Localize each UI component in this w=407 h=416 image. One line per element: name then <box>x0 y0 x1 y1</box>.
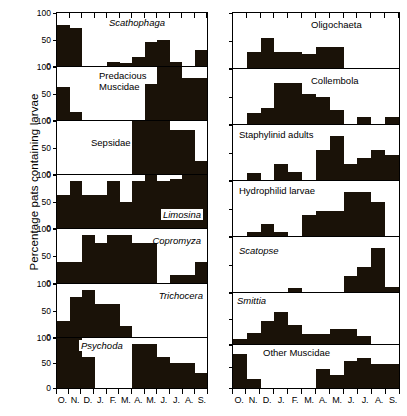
panel-caption: Limosina <box>161 209 203 220</box>
x-axis-tick <box>274 389 288 394</box>
panel-oligochaeta: Oligochaeta <box>232 12 400 68</box>
bar <box>170 275 183 283</box>
bar <box>261 224 275 236</box>
bar <box>145 344 158 388</box>
bar <box>316 334 330 344</box>
panel-caption: Smittia <box>237 295 266 306</box>
bar <box>170 179 183 228</box>
x-axis-tick-label: M. <box>330 395 344 405</box>
bar <box>330 110 344 124</box>
x-axis-tick-label: A. <box>183 395 196 405</box>
bar <box>344 329 358 344</box>
panel-staphylinid-adults: Staphylinid adults <box>232 124 400 180</box>
bar <box>57 87 70 120</box>
bar <box>302 94 316 124</box>
bar <box>195 175 208 228</box>
bar <box>274 164 288 181</box>
bar <box>182 363 195 388</box>
y-axis-ticks <box>229 13 233 68</box>
bar <box>344 361 358 388</box>
x-axis-tick-label: J. <box>157 395 170 405</box>
bar <box>288 83 302 124</box>
bar <box>247 333 261 344</box>
panel-caption: Collembola <box>311 75 359 86</box>
bar <box>330 329 344 344</box>
bar <box>70 297 83 337</box>
x-axis-tick <box>132 389 145 394</box>
x-axis-right: O.N.D.J.F.M.A.M.J.J.A.S. <box>232 389 400 411</box>
bar <box>357 158 371 180</box>
y-axis-ticks <box>229 125 233 180</box>
bar <box>371 248 385 292</box>
bar <box>182 130 195 174</box>
bar <box>120 202 133 229</box>
bar <box>132 121 145 174</box>
panel-caption: Other Muscidae <box>263 347 330 358</box>
bar <box>70 28 83 66</box>
bar <box>302 215 316 236</box>
x-axis-tick-label: O. <box>56 395 69 405</box>
x-axis-tick <box>302 389 316 394</box>
bar <box>182 275 195 283</box>
x-axis-tick-label: N. <box>246 395 260 405</box>
x-axis-tick-label: N. <box>69 395 82 405</box>
bar <box>316 150 330 180</box>
bar <box>145 175 158 228</box>
bar <box>195 78 208 120</box>
bar <box>357 192 371 236</box>
bar <box>288 52 302 69</box>
x-axis-tick <box>119 389 132 394</box>
x-axis-tick-label: J. <box>358 395 372 405</box>
bar <box>385 155 399 180</box>
bar <box>330 47 344 68</box>
bar <box>145 42 158 66</box>
bar <box>357 117 371 124</box>
panel-copromyza: 100500Copromyza <box>56 228 208 283</box>
x-axis-tick-label: O. <box>232 395 246 405</box>
x-axis-tick-label: J. <box>170 395 183 405</box>
panel-collembola: Collembola <box>232 68 400 124</box>
bar <box>316 97 330 125</box>
x-axis-tick-label: A. <box>372 395 386 405</box>
bar <box>261 108 275 125</box>
bar <box>233 354 247 388</box>
bar <box>95 195 108 228</box>
y-axis-ticks <box>229 181 233 236</box>
bar <box>120 326 133 337</box>
bar <box>120 235 133 283</box>
panel-caption: Hydrophilid larvae <box>239 185 315 196</box>
x-axis-tick-label: J. <box>344 395 358 405</box>
bar <box>330 375 344 388</box>
bar <box>195 373 208 388</box>
bar <box>132 344 145 388</box>
panel-smittia: Smittia <box>232 292 400 344</box>
bar <box>371 364 385 388</box>
bar <box>261 38 275 68</box>
x-axis-left: O.N.D.J.F.M.A.M.J.J.A.S. <box>56 389 208 411</box>
x-axis-tick <box>344 389 358 394</box>
y-axis-ticks <box>229 237 233 292</box>
bar <box>170 130 183 174</box>
x-axis-tick <box>183 389 196 394</box>
panel-scatopse: Scatopse <box>232 236 400 292</box>
panel-column-right: OligochaetaCollembolaStaphylinid adultsH… <box>232 12 400 389</box>
panel-limosina: 100500Limosina <box>56 174 208 228</box>
panel-sepsidae: 100500Sepsidae <box>56 120 208 174</box>
bar <box>82 357 95 388</box>
bar <box>57 321 70 337</box>
figure-panel-grid: Percentage pats containing larvae 100500… <box>0 0 407 416</box>
bar <box>316 211 330 236</box>
x-axis-tick-label: F. <box>107 395 120 405</box>
bar <box>385 117 399 124</box>
y-axis-tick-labels: 100500 <box>5 229 57 283</box>
bar <box>357 336 371 344</box>
x-axis-tick <box>81 389 94 394</box>
y-axis-ticks <box>229 345 233 388</box>
panel-column-left: 100500Scathophaga100500Predacious Muscid… <box>56 12 208 389</box>
x-axis-tick <box>288 389 302 394</box>
bar <box>385 364 399 388</box>
bar <box>170 363 183 388</box>
panel-caption: Scathophaga <box>109 17 165 28</box>
panel-caption: Staphylinid adults <box>239 129 313 140</box>
x-axis-tick <box>386 389 400 394</box>
